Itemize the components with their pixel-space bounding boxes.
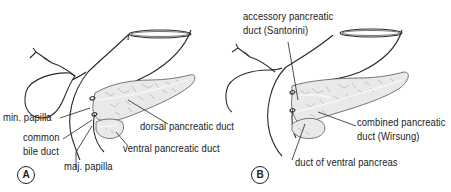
label-common-bile-duct-line1: common — [23, 131, 60, 144]
leader-min-papilla — [60, 108, 90, 118]
panel-badge-b: B — [251, 166, 269, 184]
pancreatic-duct-diagram: min. papilla common bile duct maj. papil… — [0, 0, 451, 192]
panel-badge-a: A — [17, 166, 35, 184]
leader-common-bile-duct — [63, 120, 92, 139]
label-ventral-pancreatic-duct: ventral pancreatic duct — [123, 142, 220, 155]
label-dorsal-pancreatic-duct: dorsal pancreatic duct — [140, 120, 234, 133]
ventral-part-b — [292, 118, 325, 138]
gallbladder-b — [226, 70, 268, 112]
label-common-bile-duct-line2: bile duct — [23, 145, 59, 158]
label-duct-of-ventral-pancreas: duct of ventral pancreas — [295, 156, 398, 169]
hepatic-duct-b — [232, 44, 275, 72]
label-accessory-line1: accessory pancreatic — [243, 10, 333, 23]
dorsal-pancreas-a — [93, 75, 195, 121]
hepatic-duct-a — [30, 48, 75, 76]
label-accessory-line2: duct (Santorini) — [243, 24, 308, 37]
label-maj-papilla: maj. papilla — [64, 160, 113, 173]
label-min-papilla: min. papilla — [3, 111, 52, 124]
label-combined-line1: combined pancreatic — [357, 116, 446, 129]
label-combined-line2: duct (Wirsung) — [357, 130, 419, 143]
